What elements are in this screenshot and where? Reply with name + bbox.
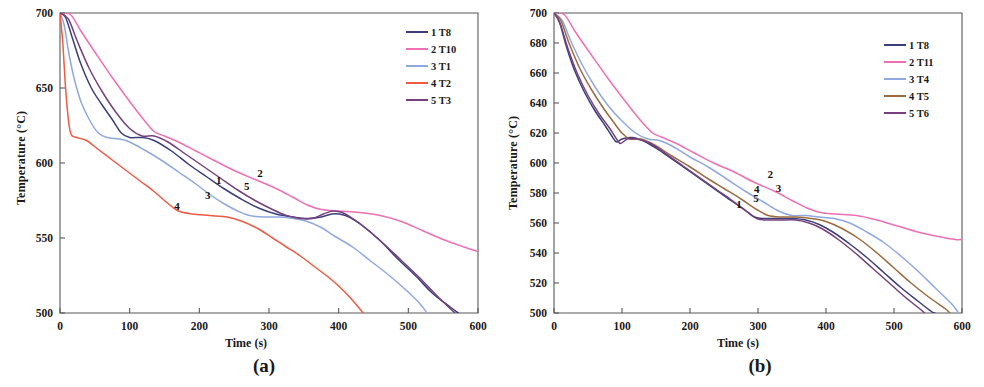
legend-label-4: 4 T5 [909, 91, 929, 102]
y-tick-label: 500 [530, 307, 548, 319]
chart-b-svg: 5005205405605806006206406606807000100200… [492, 0, 984, 340]
x-tick-label: 400 [330, 320, 348, 332]
x-tick-label: 600 [953, 320, 971, 332]
legend-label-5: 5 T6 [909, 108, 929, 119]
y-tick-label: 520 [530, 277, 548, 289]
x-tick-label: 100 [121, 320, 139, 332]
y-tick-label: 540 [530, 247, 548, 259]
figure-cooling-curves: 5005506006507000100200300400500600123451… [0, 0, 984, 387]
curve-5-T3 [60, 13, 455, 313]
curve-1-T8 [554, 13, 935, 313]
plot-frame [554, 13, 962, 313]
legend-label-1: 1 T8 [909, 40, 929, 51]
legend-label-4: 4 T2 [431, 78, 451, 89]
x-axis-label-b: Time (s) [492, 336, 984, 351]
legend-label-2: 2 T10 [431, 44, 456, 55]
panel-b: 5005205405605806006206406606807000100200… [492, 0, 984, 387]
curve-label-3: 3 [205, 189, 211, 201]
x-tick-label: 500 [400, 320, 418, 332]
curve-label-2: 2 [767, 168, 773, 180]
curves-group [60, 13, 478, 313]
curve-label-4: 4 [174, 200, 180, 212]
curve-5-T6 [554, 13, 925, 313]
legend-label-1: 1 T8 [431, 27, 451, 38]
y-tick-label: 680 [530, 37, 548, 49]
curve-label-1: 1 [736, 198, 742, 210]
legend: 1 T82 T103 T14 T25 T3 [406, 27, 456, 106]
legend-label-3: 3 T1 [431, 61, 451, 72]
x-tick-label: 300 [260, 320, 278, 332]
curve-4-T5 [554, 13, 950, 313]
y-axis-label-a: Temperature (°C) [14, 111, 29, 205]
x-tick-label: 300 [749, 320, 767, 332]
y-tick-label: 620 [530, 127, 548, 139]
y-tick-label: 640 [530, 97, 548, 109]
y-axis-label-b: Temperature (°C) [506, 116, 521, 210]
x-tick-label: 0 [57, 320, 63, 332]
legend: 1 T82 T113 T44 T55 T6 [884, 40, 934, 119]
y-tick-label: 600 [530, 157, 548, 169]
y-tick-label: 550 [36, 232, 54, 244]
curve-4-T2 [60, 13, 363, 313]
y-tick-label: 600 [36, 157, 54, 169]
plot-b: 5005205405605806006206406606807000100200… [492, 0, 984, 340]
panel-caption-b: (b) [492, 355, 984, 377]
curve-label-1: 1 [216, 174, 222, 186]
curve-3-T4 [554, 13, 959, 313]
y-tick-label: 700 [36, 7, 54, 19]
curve-label-2: 2 [257, 167, 263, 179]
y-tick-label: 560 [530, 217, 548, 229]
plot-frame [60, 13, 478, 313]
x-tick-label: 600 [469, 320, 487, 332]
y-tick-label: 700 [530, 7, 548, 19]
y-tick-label: 580 [530, 187, 548, 199]
x-tick-label: 200 [191, 320, 209, 332]
curve-1-T8 [60, 13, 458, 313]
x-tick-label: 0 [551, 320, 557, 332]
legend-label-5: 5 T3 [431, 95, 451, 106]
y-tick-label: 660 [530, 67, 548, 79]
curve-label-5: 5 [753, 192, 759, 204]
y-tick-label: 500 [36, 307, 54, 319]
plot-a: 5005506006507000100200300400500600123451… [0, 0, 492, 340]
legend-label-2: 2 T11 [909, 57, 934, 68]
curve-2-T11 [554, 13, 962, 240]
x-tick-label: 500 [885, 320, 903, 332]
chart-a-svg: 5005506006507000100200300400500600123451… [0, 0, 492, 340]
curve-label-5: 5 [244, 180, 250, 192]
x-axis-label-a: Time (s) [0, 336, 492, 351]
x-tick-label: 100 [613, 320, 631, 332]
curve-label-3: 3 [776, 182, 782, 194]
x-tick-label: 400 [817, 320, 835, 332]
panel-a: 5005506006507000100200300400500600123451… [0, 0, 492, 387]
x-tick-label: 200 [681, 320, 699, 332]
panel-caption-a: (a) [0, 355, 510, 377]
legend-label-3: 3 T4 [909, 74, 930, 85]
y-tick-label: 650 [36, 82, 54, 94]
curves-group [554, 13, 962, 313]
